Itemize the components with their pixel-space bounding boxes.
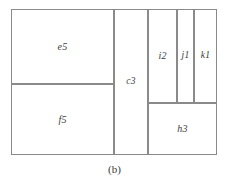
rectangle-packing-diagram: e5 f5 c3 i2 j1 k1 h3 <box>11 9 217 155</box>
rect-j1-label: j1 <box>178 51 193 61</box>
rect-c3: c3 <box>114 9 148 155</box>
rect-i2-label: i2 <box>149 51 176 61</box>
rect-j1: j1 <box>177 9 194 103</box>
rect-e5-label: e5 <box>12 42 113 52</box>
rect-h3-label: h3 <box>149 124 216 134</box>
rect-e5: e5 <box>11 9 114 84</box>
rect-i2: i2 <box>148 9 177 103</box>
rect-f5-label: f5 <box>12 115 113 125</box>
rect-f5: f5 <box>11 84 114 155</box>
rect-h3: h3 <box>148 103 217 155</box>
figure-container: e5 f5 c3 i2 j1 k1 h3 (b) <box>0 0 229 186</box>
rect-k1: k1 <box>194 9 217 103</box>
rect-c3-label: c3 <box>115 77 147 87</box>
figure-caption: (b) <box>0 163 229 175</box>
rect-k1-label: k1 <box>195 51 216 61</box>
